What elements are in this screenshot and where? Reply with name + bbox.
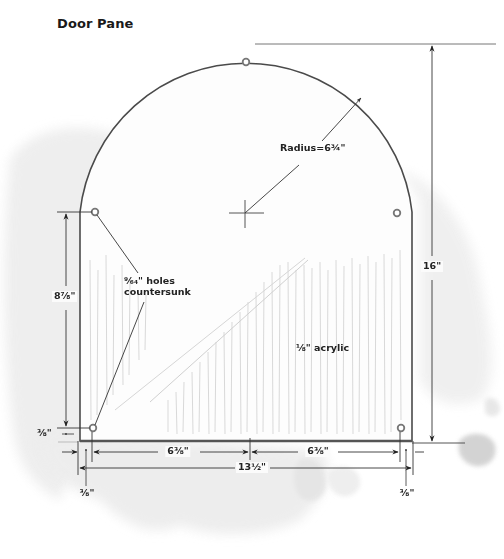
right-half-width-label: 6⅜" (305, 446, 330, 457)
bottom-left-offset-label: ⅜" (80, 488, 95, 499)
hole-top (243, 59, 250, 66)
hole-spacing-label: 8⅞" (52, 291, 77, 302)
door-pane-diagram: Door Pane Radius=6¾" ⁹⁄₆₄" holes counter… (0, 0, 504, 559)
pane-body (80, 63, 412, 441)
left-side-offset-label: ⅜" (37, 428, 52, 439)
bottom-right-offset-label: ⅜" (400, 488, 415, 499)
bottom-right-offset-dot (405, 449, 407, 451)
bottom-left-offset-dot (85, 449, 87, 451)
hole-bottom-right (398, 425, 405, 432)
hole-bottom-left (90, 425, 97, 432)
hole-right-upper (394, 210, 401, 217)
holes-callout-line2: countersunk (124, 287, 191, 298)
radius-label: Radius=6¾" (280, 143, 346, 154)
holes-callout: ⁹⁄₆₄" holes countersunk (124, 276, 191, 298)
diagram-title: Door Pane (57, 16, 134, 31)
drawing-canvas (0, 0, 504, 559)
hole-left-upper (92, 209, 99, 216)
left-offset-dot (65, 433, 67, 435)
total-width-label: 13½" (236, 462, 268, 473)
material-label: ⅛" acrylic (296, 343, 349, 354)
left-half-width-label: 6⅜" (165, 446, 190, 457)
total-height-label: 16" (421, 261, 443, 272)
